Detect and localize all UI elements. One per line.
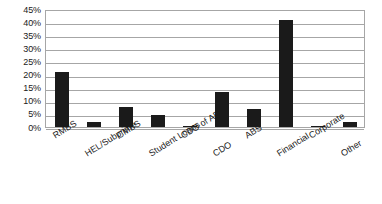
bar-chart: 0%5%10%15%20%25%30%35%40%45% RMBSHEL/Sub… — [0, 0, 382, 204]
y-axis-tick-label: 35% — [23, 32, 41, 41]
y-axis-tick-label: 45% — [23, 6, 41, 15]
plot-area — [45, 10, 365, 128]
bar-series — [46, 11, 364, 127]
bar — [87, 122, 102, 127]
x-axis-tick-label: Other — [339, 138, 363, 158]
y-axis-tick-label: 10% — [23, 97, 41, 106]
x-axis: RMBSHEL/SubprimeCMBSStudent LoansCDO of … — [45, 128, 365, 204]
y-axis-tick-label: 20% — [23, 71, 41, 80]
bar — [343, 122, 358, 127]
y-axis-tick-label: 25% — [23, 58, 41, 67]
y-axis-tick-label: 30% — [23, 45, 41, 54]
x-axis-tick-label: Financial — [275, 131, 311, 159]
y-axis-tick-label: 15% — [23, 84, 41, 93]
y-axis: 0%5%10%15%20%25%30%35%40%45% — [0, 0, 45, 204]
bar — [55, 72, 70, 127]
y-axis-tick-label: 40% — [23, 19, 41, 28]
bar — [151, 115, 166, 127]
y-axis-tick-label: 5% — [28, 110, 41, 119]
x-axis-tick-label: CDO — [211, 139, 233, 158]
y-axis-tick-label: 0% — [28, 124, 41, 133]
bar — [279, 20, 294, 128]
